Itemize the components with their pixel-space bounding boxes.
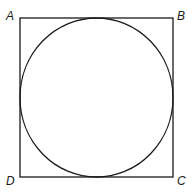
vertex-label-d: D (6, 174, 15, 188)
inscribed-circle-diagram: A B C D (0, 0, 195, 193)
vertex-label-a: A (5, 9, 14, 23)
square-abcd (20, 18, 173, 177)
vertex-label-c: C (177, 174, 186, 188)
vertex-label-b: B (177, 9, 185, 23)
inscribed-circle (20, 18, 173, 177)
